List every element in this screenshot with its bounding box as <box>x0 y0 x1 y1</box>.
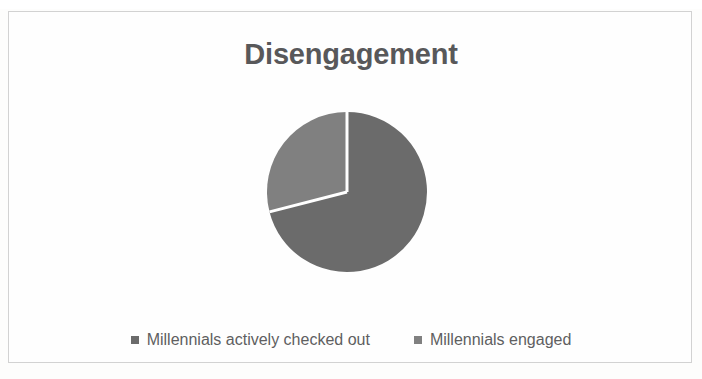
chart-legend: Millennials actively checked out Millenn… <box>9 332 693 348</box>
scan-edge-artifact <box>0 0 702 9</box>
legend-swatch-square-icon <box>414 336 422 344</box>
legend-item-label: Millennials actively checked out <box>147 332 370 348</box>
chart-figure: Disengagement Millennials actively check… <box>0 0 702 379</box>
chart-frame: Disengagement Millennials actively check… <box>8 11 692 363</box>
plot-area <box>9 12 693 364</box>
legend-swatch-square-icon <box>131 336 139 344</box>
pie-chart <box>261 106 433 278</box>
legend-item-disengaged[interactable]: Millennials actively checked out <box>131 332 370 348</box>
legend-item-label: Millennials engaged <box>430 332 571 348</box>
legend-item-engaged[interactable]: Millennials engaged <box>414 332 571 348</box>
